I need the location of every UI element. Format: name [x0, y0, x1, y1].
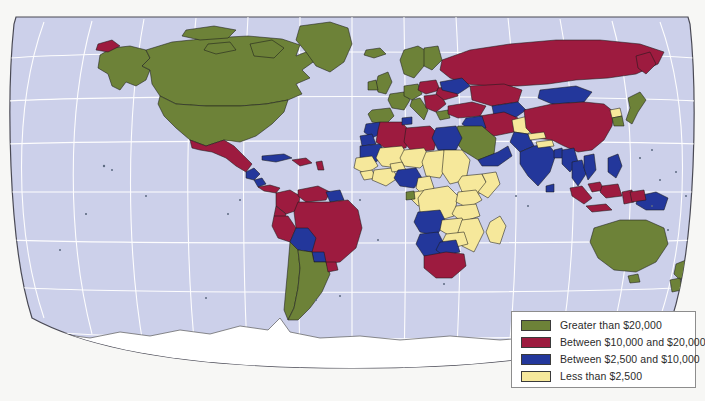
legend-swatch-gt20k	[521, 320, 551, 331]
legend-label-2500-10k: Between $2,500 and $10,000	[560, 354, 700, 365]
region-egypt	[432, 126, 462, 150]
region-new-zealand-south	[670, 278, 682, 292]
legend-label-lt2500: Less than $2,500	[560, 371, 642, 382]
region-indonesia-papua	[630, 190, 646, 202]
region-south-korea	[612, 116, 624, 126]
region-uruguay	[326, 262, 338, 272]
map-legend: Greater than $20,000 Between $10,000 and…	[511, 311, 696, 388]
legend-item-10k-20k: Between $10,000 and $20,000	[521, 334, 688, 351]
legend-label-gt20k: Greater than $20,000	[560, 320, 662, 331]
region-tunisia	[402, 117, 412, 125]
region-paraguay	[312, 252, 326, 262]
region-equatorial-guinea	[406, 191, 415, 200]
legend-item-gt20k: Greater than $20,000	[521, 317, 688, 334]
legend-item-lt2500: Less than $2,500	[521, 368, 688, 385]
legend-swatch-2500-10k	[521, 354, 551, 365]
map-figure: Greater than $20,000 Between $10,000 and…	[0, 0, 705, 401]
legend-item-2500-10k: Between $2,500 and $10,000	[521, 351, 688, 368]
legend-swatch-lt2500	[521, 371, 551, 382]
legend-label-10k-20k: Between $10,000 and $20,000	[560, 337, 705, 348]
region-ireland	[368, 80, 378, 90]
legend-swatch-10k-20k	[521, 337, 551, 348]
